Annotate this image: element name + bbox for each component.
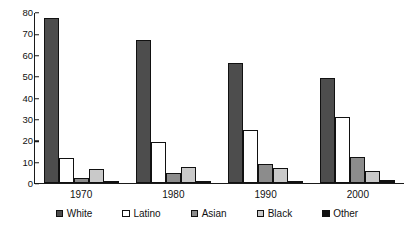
y-axis-tick: 20 xyxy=(22,137,35,147)
bar xyxy=(59,158,74,183)
bar xyxy=(380,180,395,183)
legend-swatch-icon xyxy=(191,210,199,218)
y-axis-tick: 10 xyxy=(22,158,35,168)
y-axis-tick-label: 70 xyxy=(22,30,35,40)
x-axis-tick-label: 1970 xyxy=(35,189,127,200)
y-axis-tick-label: 60 xyxy=(22,51,35,61)
bar-groups: 1970198019902000 xyxy=(35,13,404,183)
bar-set xyxy=(228,13,303,183)
legend-item: Latino xyxy=(122,208,160,219)
legend-swatch-icon xyxy=(56,210,64,218)
y-axis-tick: 70 xyxy=(22,30,35,40)
x-axis-tick-label: 1980 xyxy=(127,189,219,200)
bar xyxy=(181,167,196,183)
chart-legend: WhiteLatinoAsianBlackOther xyxy=(0,208,414,219)
bar xyxy=(196,181,211,183)
bar xyxy=(273,168,288,183)
y-axis-tick-label: 20 xyxy=(22,137,35,147)
bar-group: 1990 xyxy=(220,13,312,183)
y-axis-tick: 30 xyxy=(22,115,35,125)
legend-item: Asian xyxy=(191,208,227,219)
bar-set xyxy=(136,13,211,183)
bar xyxy=(335,117,350,183)
bar xyxy=(365,171,380,183)
y-axis-tick: 0 xyxy=(28,179,35,189)
y-axis-tick-label: 80 xyxy=(22,8,35,18)
legend-label: Black xyxy=(268,208,292,219)
bar xyxy=(104,181,119,183)
y-axis-tick-mark xyxy=(35,183,39,184)
bar xyxy=(243,130,258,183)
y-axis-tick: 60 xyxy=(22,51,35,61)
legend-label: Other xyxy=(333,208,358,219)
plot-area: Percent 01020304050607080 19701980199020… xyxy=(34,13,404,184)
y-axis-tick-label: 50 xyxy=(22,72,35,82)
y-axis-tick-label: 30 xyxy=(22,115,35,125)
bar xyxy=(320,78,335,183)
legend-label: Latino xyxy=(133,208,160,219)
x-axis-tick-label: 1990 xyxy=(220,189,312,200)
bar-group: 1970 xyxy=(35,13,127,183)
bar-chart: Percent 01020304050607080 19701980199020… xyxy=(0,0,414,233)
bar xyxy=(288,181,303,183)
bar-group: 1980 xyxy=(127,13,219,183)
bar-set xyxy=(320,13,395,183)
legend-label: Asian xyxy=(202,208,227,219)
legend-item: Other xyxy=(322,208,358,219)
y-axis-tick: 40 xyxy=(22,94,35,104)
y-axis-tick-label: 40 xyxy=(22,94,35,104)
bar xyxy=(44,18,59,183)
y-axis-tick-label: 0 xyxy=(28,179,35,189)
bar xyxy=(258,164,273,183)
bar xyxy=(151,142,166,183)
legend-label: White xyxy=(67,208,93,219)
bar xyxy=(136,40,151,183)
legend-item: White xyxy=(56,208,93,219)
bar xyxy=(89,169,104,183)
bar xyxy=(166,173,181,183)
legend-swatch-icon xyxy=(322,210,330,218)
bar-set xyxy=(44,13,119,183)
legend-swatch-icon xyxy=(122,210,130,218)
bar xyxy=(74,178,89,183)
x-axis-tick-label: 2000 xyxy=(312,189,404,200)
legend-swatch-icon xyxy=(257,210,265,218)
legend-item: Black xyxy=(257,208,292,219)
y-axis-tick: 50 xyxy=(22,72,35,82)
bar xyxy=(350,157,365,183)
y-axis-tick-label: 10 xyxy=(22,158,35,168)
y-axis-tick: 80 xyxy=(22,8,35,18)
bar xyxy=(228,63,243,183)
bar-group: 2000 xyxy=(312,13,404,183)
